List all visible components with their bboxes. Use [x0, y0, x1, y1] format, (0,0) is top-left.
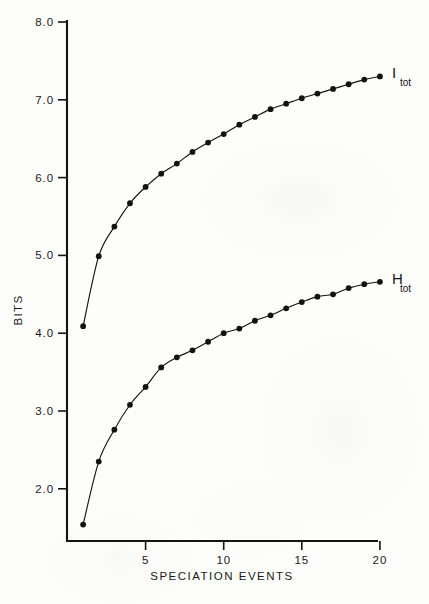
data-point [143, 184, 149, 190]
series-end-labels: ItotHtot [392, 64, 411, 293]
series-data-points [80, 74, 383, 528]
data-point [268, 106, 274, 112]
data-point [283, 305, 289, 311]
data-point [252, 114, 258, 120]
data-point [111, 224, 117, 230]
data-point [268, 312, 274, 318]
data-point [80, 323, 86, 329]
y-tick-label: 7.0 [35, 94, 54, 106]
data-point [221, 131, 227, 137]
data-point [174, 161, 180, 167]
data-point [330, 291, 336, 297]
data-point [346, 285, 352, 291]
data-point [143, 384, 149, 390]
data-point [158, 365, 164, 371]
y-axis-title: BITS [12, 294, 24, 325]
data-point [346, 81, 352, 87]
data-point [190, 347, 196, 353]
data-point [377, 74, 383, 80]
x-axis-title: SPECIATION EVENTS [150, 570, 294, 582]
figure-canvas: 2.03.04.05.06.07.08.0 5101520 ItotHtot S… [0, 0, 429, 604]
x-axis-tick-labels: 5101520 [142, 554, 387, 566]
data-point [96, 253, 102, 259]
data-point [361, 77, 367, 83]
data-point [252, 318, 258, 324]
line-chart: 2.03.04.05.06.07.08.0 5101520 ItotHtot S… [0, 0, 429, 604]
x-axis-ticks [146, 541, 380, 550]
data-point [283, 101, 289, 107]
x-tick-label: 20 [373, 554, 388, 566]
data-point [127, 200, 133, 206]
series-label-I_tot: I [392, 64, 396, 81]
y-axis-ticks [58, 22, 67, 489]
y-tick-label: 2.0 [35, 483, 54, 495]
data-point [377, 279, 383, 285]
data-point [174, 354, 180, 360]
data-point [111, 427, 117, 433]
data-point [361, 281, 367, 287]
x-tick-label: 5 [142, 554, 149, 566]
data-point [205, 339, 211, 345]
series-label-subscript-I_tot: tot [400, 77, 411, 88]
series-label-subscript-H_tot: tot [400, 283, 411, 294]
y-tick-label: 3.0 [35, 405, 54, 417]
data-point [158, 171, 164, 177]
data-point [127, 402, 133, 408]
data-point [315, 294, 321, 300]
axis-frame [67, 21, 377, 541]
data-point [330, 86, 336, 92]
data-point [190, 149, 196, 155]
x-tick-label: 10 [216, 554, 231, 566]
data-point [236, 122, 242, 128]
series-lines [83, 76, 380, 524]
data-point [80, 522, 86, 528]
data-point [96, 459, 102, 465]
series-line-I_tot [83, 76, 380, 326]
y-tick-label: 5.0 [35, 249, 54, 261]
y-axis-tick-labels: 2.03.04.05.06.07.08.0 [35, 16, 54, 495]
data-point [205, 140, 211, 146]
y-tick-label: 4.0 [35, 327, 54, 339]
data-point [299, 95, 305, 101]
data-point [221, 330, 227, 336]
y-tick-label: 8.0 [35, 16, 54, 28]
x-tick-label: 15 [295, 554, 310, 566]
data-point [315, 91, 321, 97]
data-point [236, 326, 242, 332]
data-point [299, 299, 305, 305]
y-tick-label: 6.0 [35, 172, 54, 184]
